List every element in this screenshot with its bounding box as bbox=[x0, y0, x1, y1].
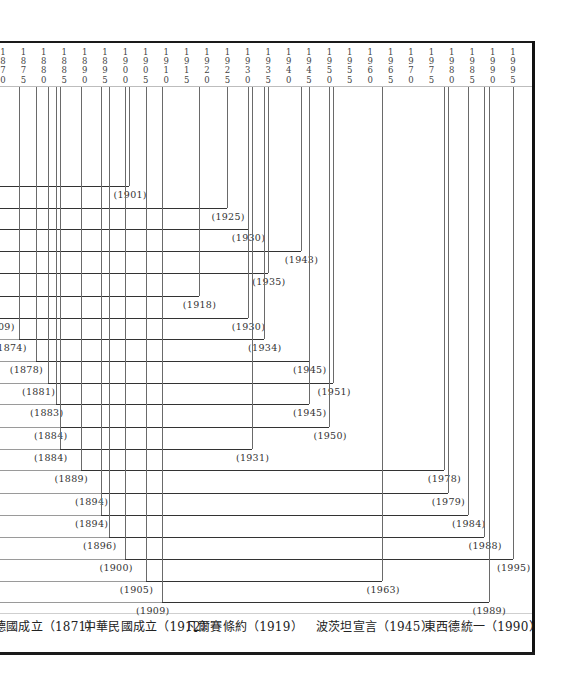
row-leader-line bbox=[0, 383, 48, 384]
row-leader-line bbox=[0, 515, 101, 516]
row-leader-line bbox=[0, 559, 125, 560]
row-start-connector bbox=[162, 87, 163, 602]
row-end-connector bbox=[468, 87, 469, 515]
event-potsdam-declaration: 波茨坦宣言（1945） bbox=[316, 617, 433, 634]
row-start-year-label: (1909) bbox=[136, 605, 169, 616]
row-end-connector bbox=[448, 87, 449, 493]
row-end-year-label: (1945) bbox=[293, 407, 326, 418]
row-span-line bbox=[101, 493, 448, 494]
year-tick-1955: 1 9 5 5 bbox=[345, 48, 355, 85]
row-end-year-label: (1934) bbox=[248, 342, 281, 353]
row-span-line bbox=[0, 318, 248, 319]
row-leader-line bbox=[0, 493, 101, 494]
row-end-connector bbox=[382, 87, 383, 581]
year-tick-1975: 1 9 7 5 bbox=[426, 48, 436, 85]
row-start-year-label: (1894) bbox=[75, 496, 108, 507]
year-tick-1915: 1 9 1 5 bbox=[182, 48, 192, 85]
row-leader-line bbox=[0, 537, 109, 538]
row-span-line bbox=[162, 602, 488, 603]
row-span-line bbox=[56, 404, 309, 405]
year-tick-1970: 1 9 7 0 bbox=[406, 48, 416, 85]
row-start-year-label: (1905) bbox=[120, 584, 153, 595]
frame-bottom-border bbox=[0, 652, 535, 655]
row-end-year-label: (1979) bbox=[432, 496, 465, 507]
row-span-line bbox=[81, 470, 444, 471]
row-start-year-label: (1900) bbox=[99, 562, 132, 573]
row-leader-line bbox=[0, 470, 81, 471]
row-start-year-label: (1878) bbox=[10, 364, 43, 375]
year-tick-1985: 1 9 8 5 bbox=[467, 48, 477, 85]
row-span-line bbox=[0, 208, 227, 209]
year-tick-1990: 1 9 9 0 bbox=[488, 48, 498, 85]
row-end-year-label: (1984) bbox=[452, 518, 485, 529]
row-leader-line bbox=[0, 581, 146, 582]
row-start-year-label: (1874) bbox=[0, 342, 27, 353]
year-tick-1980: 1 9 8 0 bbox=[447, 48, 457, 85]
row-leader-line bbox=[0, 449, 60, 450]
row-end-year-label: (1951) bbox=[317, 386, 350, 397]
row-end-year-label: (1963) bbox=[366, 584, 399, 595]
row-end-connector bbox=[129, 87, 130, 186]
row-span-line bbox=[36, 361, 309, 362]
row-end-connector bbox=[484, 87, 485, 537]
row-span-line bbox=[0, 296, 199, 297]
row-end-connector bbox=[248, 87, 249, 318]
row-end-year-label: (1931) bbox=[236, 452, 269, 463]
row-end-connector bbox=[513, 87, 514, 559]
row-end-year-label: (1988) bbox=[468, 540, 501, 551]
row-start-connector bbox=[60, 87, 61, 449]
row-end-connector bbox=[329, 87, 330, 427]
frame-top-border bbox=[0, 41, 534, 43]
year-tick-1935: 1 9 3 5 bbox=[263, 48, 273, 85]
row-span-line bbox=[146, 581, 383, 582]
year-tick-1885: 1 8 8 5 bbox=[59, 48, 69, 85]
row-start-year-label: 09) bbox=[0, 321, 15, 332]
row-start-connector bbox=[146, 87, 147, 581]
frame-right-border bbox=[532, 41, 535, 655]
row-end-connector bbox=[444, 87, 445, 470]
year-tick-1870: 1 8 7 0 bbox=[0, 48, 8, 85]
row-start-connector bbox=[109, 87, 110, 537]
row-end-connector bbox=[199, 87, 200, 296]
row-end-year-label: (1901) bbox=[113, 189, 146, 200]
row-span-line bbox=[0, 229, 248, 230]
row-end-connector bbox=[268, 87, 269, 273]
event-german-reunification: 東西德統一（1990） bbox=[424, 617, 541, 634]
row-start-connector bbox=[125, 87, 126, 559]
row-leader-line bbox=[0, 427, 60, 428]
row-start-connector bbox=[81, 87, 82, 470]
row-start-year-label: (1881) bbox=[22, 386, 55, 397]
year-tick-1890: 1 8 9 0 bbox=[80, 48, 90, 85]
row-end-year-label: (1930) bbox=[232, 321, 265, 332]
year-tick-1895: 1 8 9 5 bbox=[100, 48, 110, 85]
row-span-line bbox=[101, 515, 468, 516]
timeline-diagram: 1 8 7 01 8 7 51 8 8 01 8 8 51 8 9 01 8 9… bbox=[0, 0, 567, 675]
year-tick-1960: 1 9 6 0 bbox=[365, 48, 375, 85]
row-leader-line bbox=[0, 361, 36, 362]
year-tick-1875: 1 8 7 5 bbox=[18, 48, 28, 85]
year-tick-1905: 1 9 0 5 bbox=[141, 48, 151, 85]
row-span-line bbox=[60, 449, 252, 450]
row-end-connector bbox=[489, 87, 490, 602]
row-start-connector bbox=[48, 87, 49, 383]
row-end-connector bbox=[264, 87, 265, 339]
row-start-year-label: (1883) bbox=[30, 407, 63, 418]
event-versailles-treaty: 凡爾賽條約（1919） bbox=[186, 617, 303, 634]
row-start-year-label: (1894) bbox=[75, 518, 108, 529]
row-end-year-label: (1935) bbox=[252, 276, 285, 287]
row-span-line bbox=[48, 383, 334, 384]
year-tick-1900: 1 9 0 0 bbox=[120, 48, 130, 85]
row-start-year-label: (1884) bbox=[34, 430, 67, 441]
year-tick-1880: 1 8 8 0 bbox=[39, 48, 49, 85]
year-tick-1940: 1 9 4 0 bbox=[284, 48, 294, 85]
year-tick-1930: 1 9 3 0 bbox=[243, 48, 253, 85]
row-start-year-label: (1889) bbox=[55, 473, 88, 484]
row-end-connector bbox=[301, 87, 302, 251]
row-end-year-label: (1943) bbox=[285, 254, 318, 265]
row-start-connector bbox=[56, 87, 57, 404]
row-start-connector bbox=[36, 87, 37, 361]
year-tick-1920: 1 9 2 0 bbox=[202, 48, 212, 85]
year-tick-1925: 1 9 2 5 bbox=[222, 48, 232, 85]
row-start-connector bbox=[101, 87, 102, 515]
row-end-year-label: (1950) bbox=[313, 430, 346, 441]
